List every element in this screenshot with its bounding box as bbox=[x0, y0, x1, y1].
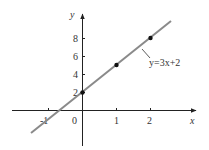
x-axis-label: x bbox=[189, 115, 195, 126]
data-point bbox=[114, 63, 118, 67]
y-axis-label: y bbox=[69, 9, 75, 20]
origin-label: 0 bbox=[72, 115, 77, 126]
data-point bbox=[80, 90, 84, 94]
data-point bbox=[148, 36, 152, 40]
y-tick-label: 4 bbox=[73, 69, 78, 80]
x-tick-label: 2 bbox=[147, 115, 152, 126]
equation-label: y=3x+2 bbox=[149, 57, 180, 68]
x-tick-label: 1 bbox=[114, 115, 119, 126]
chart: -1 0 1 2 2 4 6 8 x y y=3x+2 bbox=[0, 0, 209, 150]
y-tick-label: 6 bbox=[73, 51, 78, 62]
y-tick-label: 8 bbox=[73, 33, 78, 44]
